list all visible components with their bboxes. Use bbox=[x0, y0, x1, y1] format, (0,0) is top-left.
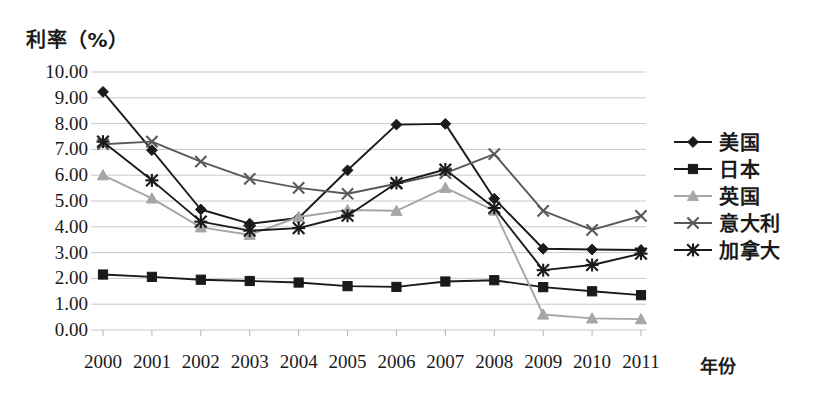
data-point bbox=[196, 275, 205, 284]
diamond-marker-icon bbox=[672, 131, 714, 153]
data-point bbox=[194, 215, 207, 228]
data-point bbox=[587, 287, 596, 296]
data-point bbox=[145, 174, 158, 187]
data-point bbox=[292, 222, 305, 235]
interest-rate-line-chart: 利率（%） 年份 10.009.008.007.006.005.004.003.… bbox=[0, 0, 823, 395]
data-point bbox=[488, 201, 501, 214]
legend-item-5[interactable]: 加拿大 bbox=[672, 236, 781, 263]
data-point bbox=[243, 224, 256, 237]
data-point bbox=[97, 135, 110, 148]
data-point bbox=[147, 272, 156, 281]
legend-label: 美国 bbox=[719, 127, 760, 156]
legend-item-2[interactable]: 日本 bbox=[672, 155, 781, 182]
data-point bbox=[635, 247, 648, 260]
data-point bbox=[294, 278, 303, 287]
series-line bbox=[103, 275, 641, 296]
data-point bbox=[390, 176, 403, 189]
data-point bbox=[587, 244, 598, 255]
series-3 bbox=[97, 170, 646, 324]
asterisk-marker-icon bbox=[672, 239, 714, 261]
legend-label: 加拿大 bbox=[719, 235, 781, 264]
data-point bbox=[341, 209, 354, 222]
data-point bbox=[539, 283, 548, 292]
square-marker-icon bbox=[672, 158, 714, 180]
data-point bbox=[537, 264, 550, 277]
cross-marker-icon bbox=[672, 212, 714, 234]
data-point bbox=[146, 193, 157, 203]
legend-label: 英国 bbox=[719, 181, 760, 210]
data-point bbox=[440, 182, 451, 192]
data-point bbox=[490, 276, 499, 285]
triangle-marker-icon bbox=[672, 185, 714, 207]
legend-item-4[interactable]: 意大利 bbox=[672, 209, 781, 236]
data-point bbox=[635, 210, 646, 221]
legend-label: 意大利 bbox=[719, 208, 781, 237]
series-2 bbox=[98, 270, 645, 300]
data-point bbox=[343, 282, 352, 291]
data-point bbox=[489, 148, 500, 159]
series-1 bbox=[98, 86, 647, 255]
axis-tick-marks bbox=[103, 330, 641, 336]
series-line bbox=[103, 142, 641, 270]
data-point bbox=[586, 258, 599, 271]
data-point bbox=[440, 118, 451, 129]
data-point bbox=[439, 163, 452, 176]
data-point bbox=[392, 282, 401, 291]
data-point bbox=[586, 224, 597, 235]
series-line bbox=[103, 175, 641, 319]
data-point bbox=[245, 276, 254, 285]
series-5 bbox=[97, 135, 648, 276]
series-line bbox=[103, 92, 641, 250]
legend-item-1[interactable]: 美国 bbox=[672, 128, 781, 155]
data-point bbox=[636, 291, 645, 300]
data-point bbox=[441, 277, 450, 286]
series-4 bbox=[97, 136, 646, 235]
series-layer bbox=[97, 86, 648, 323]
data-point bbox=[98, 270, 107, 279]
data-point bbox=[195, 156, 206, 167]
data-point bbox=[538, 205, 549, 216]
data-point bbox=[97, 170, 108, 180]
legend-item-3[interactable]: 英国 bbox=[672, 182, 781, 209]
legend-label: 日本 bbox=[719, 154, 760, 183]
legend: 美国日本英国意大利加拿大 bbox=[672, 128, 781, 263]
